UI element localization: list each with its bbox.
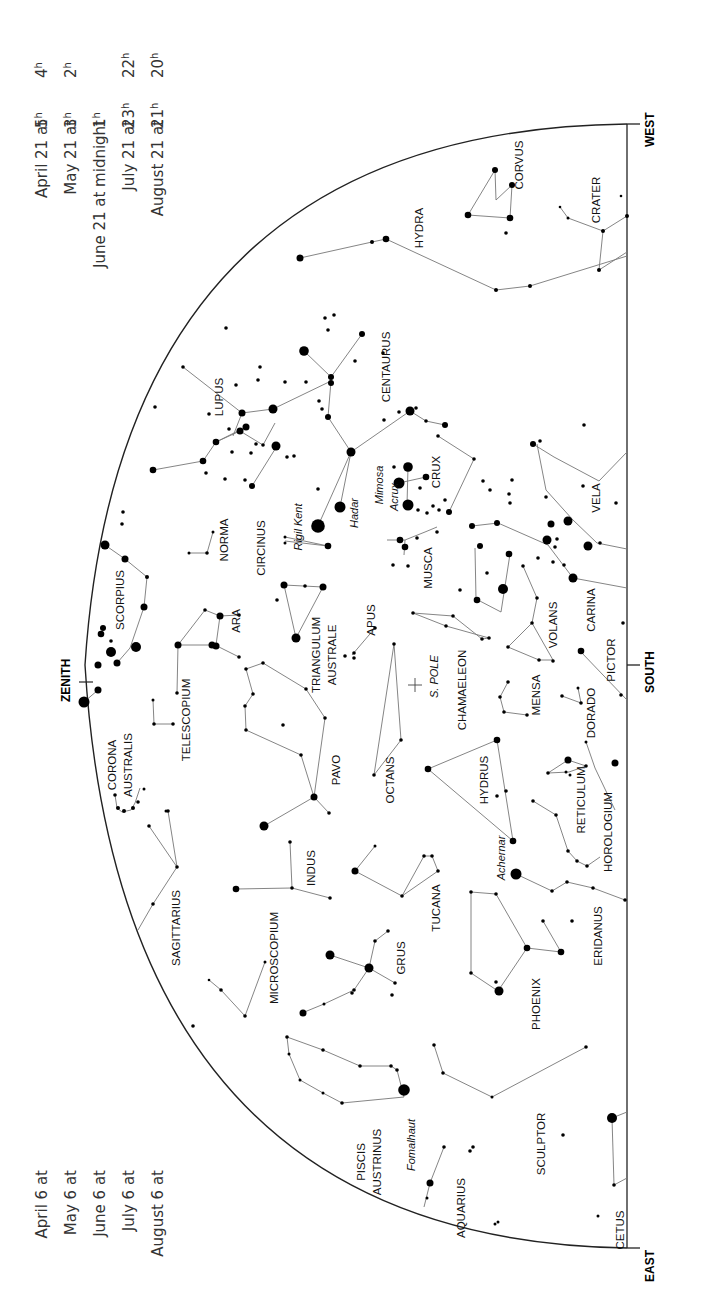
constellation-label: TUCANA: [430, 884, 442, 932]
constellation-label: AUSTRALIS: [122, 733, 134, 797]
south-pole-label: S. POLE: [428, 655, 440, 698]
constellation-label: CORONA: [106, 739, 118, 790]
star-name-label: Achernar: [495, 834, 507, 881]
constellation-label: PICTOR: [605, 638, 617, 681]
constellation-label: CENTAURUS: [380, 331, 392, 402]
viewing-date: May 6 at: [62, 1170, 80, 1235]
star-name-label: Rigil Kent: [292, 503, 304, 551]
constellation-label: AUSTRINUS: [371, 1128, 383, 1195]
constellation-label: OCTANS: [384, 756, 396, 803]
east-label: EAST: [643, 1249, 657, 1282]
constellation-label: MENSA: [530, 674, 542, 715]
constellation-label: NORMA: [218, 518, 230, 561]
viewing-time: 4h: [33, 62, 51, 78]
constellation-label: CARINA: [585, 588, 597, 632]
constellation-label: SCULPTOR: [535, 1113, 547, 1175]
constellation-label: MUSCA: [422, 547, 434, 589]
constellation-label: HYDRUS: [478, 755, 490, 804]
constellation-lines: [84, 170, 627, 1207]
viewing-date: June 6 at: [91, 1170, 109, 1238]
viewing-date: August 21 at: [149, 120, 167, 216]
constellation-label: VOLANS: [547, 601, 559, 648]
star-name-label: Hadar: [348, 497, 360, 528]
constellation-label: APUS: [365, 604, 377, 636]
chart-frame: [79, 124, 640, 1248]
constellation-label: HOROLOGIUM: [602, 792, 614, 872]
constellation-label: LUPUS: [213, 378, 225, 417]
constellation-label: AUSTRALE: [326, 624, 338, 685]
constellation-label: CRUX: [430, 455, 442, 488]
constellation-label: MICROSCOPIUM: [268, 912, 280, 1004]
star-chart: WEST SOUTH EAST ZENITH S. POLE CORVUSCRA…: [0, 0, 705, 1310]
viewing-time: 1h: [91, 112, 109, 128]
constellation-label: CORVUS: [513, 140, 525, 189]
viewing-time: 21h: [149, 103, 167, 128]
constellation-label: CETUS: [614, 1210, 626, 1249]
stars: [79, 167, 630, 1226]
constellation-label: ARA: [230, 609, 242, 633]
direction-labels: WEST SOUTH EAST ZENITH S. POLE: [59, 112, 657, 1282]
sky-boundary-arc: [85, 124, 627, 1248]
constellation-label: SCORPIUS: [114, 570, 126, 630]
constellation-labels: CORVUSCRATERHYDRACENTAURUSLUPUSCRUXVELAN…: [106, 140, 626, 1249]
constellation-label: INDUS: [305, 850, 317, 886]
constellation-label: PHOENIX: [530, 978, 542, 1030]
constellation-label: PISCIS: [355, 1143, 367, 1181]
constellation-label: ERIDANUS: [592, 906, 604, 966]
constellation-label: AQUARIUS: [455, 1178, 467, 1238]
constellation-label: CHAMAELEON: [456, 650, 468, 731]
constellation-label: HYDRA: [413, 208, 425, 249]
west-label: WEST: [643, 112, 657, 147]
constellation-label: SAGITTARIUS: [170, 890, 182, 966]
viewing-time: 5h: [33, 112, 51, 128]
constellation-label: TRIANGULUM: [310, 617, 322, 693]
constellation-label: CIRCINUS: [255, 520, 267, 576]
viewing-date: June 21 at midnight: [91, 120, 109, 269]
viewing-time: 22h: [120, 53, 138, 78]
viewing-date: May 21 at: [62, 120, 80, 195]
south-label: SOUTH: [643, 651, 657, 693]
viewing-time: 2h: [62, 62, 80, 78]
named-star-labels: Rigil KentHadarMimosaAcruxAchernarFomalh…: [292, 466, 507, 1171]
viewing-date: July 6 at: [120, 1170, 138, 1232]
star-name-label: Fomalhaut: [405, 1118, 417, 1171]
viewing-time: 3h: [62, 112, 80, 128]
viewing-time: 20h: [149, 53, 167, 78]
zenith-label: ZENITH: [59, 659, 73, 702]
constellation-label: RETICULUM: [575, 766, 587, 833]
constellation-label: GRUS: [395, 941, 407, 975]
viewing-date: April 6 at: [33, 1170, 51, 1239]
viewing-times-top: April 21 at4hMay 21 at2hJune 21 at midni…: [33, 53, 167, 269]
viewing-date: July 21 at: [120, 120, 138, 192]
south-pole-marker-icon: [408, 678, 422, 692]
constellation-label: VELA: [590, 483, 602, 513]
viewing-date: August 6 at: [149, 1170, 167, 1257]
constellation-label: CRATER: [590, 177, 602, 223]
viewing-time: 23h: [120, 103, 138, 128]
constellation-label: PAVO: [330, 755, 342, 785]
viewing-date: April 21 at: [33, 120, 51, 198]
viewing-times-bottom: April 6 at5hMay 6 at3hJune 6 at1hJuly 6 …: [33, 103, 167, 1257]
constellation-label: DORADO: [585, 688, 597, 739]
star-name-label: Mimosa: [373, 466, 385, 505]
star-name-label: Acrux: [388, 482, 400, 512]
constellation-label: TELESCOPIUM: [180, 679, 192, 761]
